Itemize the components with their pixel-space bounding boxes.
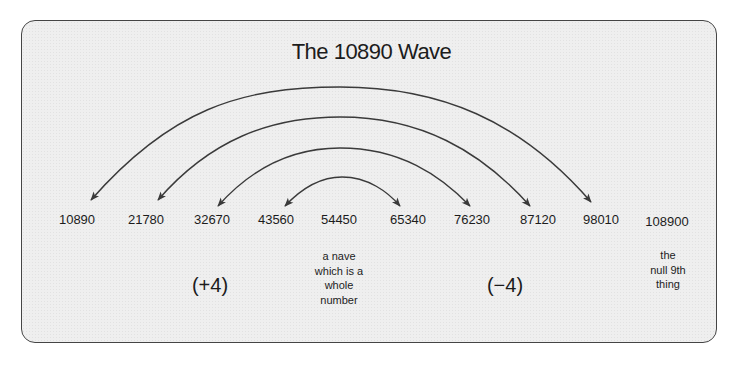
center-note-line: whole [294,278,384,293]
end-note: the null 9th thing [623,248,713,292]
center-note-line: a nave [294,249,384,264]
end-note-line: null 9th [623,263,713,278]
arc-second [158,117,530,206]
number-label: 108900 [632,214,702,229]
center-note: a nave which is a whole number [294,249,384,307]
number-label: 65340 [373,212,443,227]
number-label: 98010 [566,212,636,227]
number-label: 21780 [111,212,181,227]
number-label: 87120 [503,212,573,227]
arc-inner [285,177,400,206]
center-note-line: which is a [294,264,384,279]
end-note-line: thing [623,277,713,292]
number-label: 32670 [177,212,247,227]
plus-four-label: (+4) [180,274,240,297]
end-note-line: the [623,248,713,263]
arc-outer [91,87,591,202]
center-note-line: number [294,293,384,308]
number-label: 76230 [437,212,507,227]
diagram-title: The 10890 Wave [0,39,743,65]
number-label: 43560 [241,212,311,227]
number-label: 54450 [304,212,374,227]
minus-four-label: (−4) [475,274,535,297]
number-label: 10890 [42,212,112,227]
